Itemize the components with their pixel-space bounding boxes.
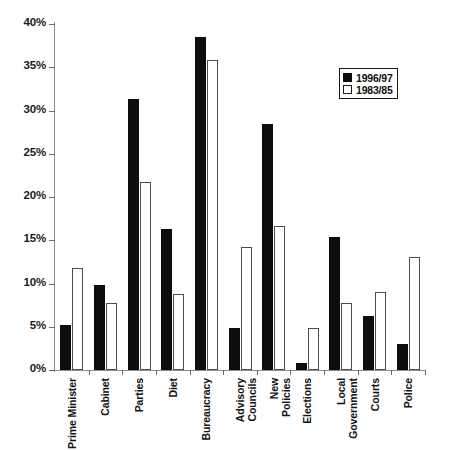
bar: [229, 328, 240, 370]
x-axis-tick: [89, 370, 90, 375]
bar: [397, 344, 408, 370]
bar: [308, 328, 319, 370]
bar-group: [262, 24, 285, 370]
x-axis-tick: [391, 370, 392, 375]
bar-group: [296, 24, 319, 370]
bar-group: [229, 24, 252, 370]
bar: [341, 303, 352, 370]
chart-legend: 1996/97 1983/85: [339, 68, 398, 99]
bar-group: [128, 24, 151, 370]
bar: [296, 363, 307, 370]
bar-group: [195, 24, 218, 370]
bar: [106, 303, 117, 370]
x-axis-tick: [324, 370, 325, 375]
bar: [173, 294, 184, 370]
bar: [72, 268, 83, 370]
bar: [409, 257, 420, 370]
x-axis-tick: [122, 370, 123, 375]
bar: [375, 292, 386, 370]
bar: [161, 229, 172, 370]
legend-label: 1996/97: [356, 72, 393, 84]
y-axis-tick-label: 5%: [6, 319, 46, 331]
bar: [60, 325, 71, 370]
bar: [262, 124, 273, 370]
x-axis-category-label: Elections: [302, 378, 314, 424]
x-axis-category-label: Police: [403, 378, 415, 408]
x-axis-line: [49, 370, 425, 371]
x-axis-tick: [190, 370, 191, 375]
bar-group: [397, 24, 420, 370]
y-axis-tick-label: 15%: [6, 232, 46, 244]
bar: [140, 182, 151, 370]
legend-swatch-filled-icon: [343, 73, 352, 82]
bar: [329, 237, 340, 370]
legend-item: 1983/85: [343, 84, 393, 95]
x-axis-category-label: NewPolicies: [269, 378, 292, 417]
y-axis-tick-label: 35%: [6, 59, 46, 71]
bar: [195, 37, 206, 370]
legend-item: 1996/97: [343, 72, 393, 83]
y-axis-tick-label: 30%: [6, 103, 46, 115]
scan-artifact: [0, 438, 450, 450]
bar-chart: 0%5%10%15%20%25%30%35%40% Prime Minister…: [0, 0, 450, 450]
x-axis-category-label: Cabinet: [100, 378, 112, 416]
x-axis-category-label: Diet: [168, 378, 180, 397]
x-axis-tick: [223, 370, 224, 375]
x-axis-tick: [156, 370, 157, 375]
bar: [94, 285, 105, 370]
bar: [274, 226, 285, 370]
x-axis-tick: [425, 370, 426, 375]
x-axis-category-label: Parties: [134, 378, 146, 412]
legend-swatch-outlined-icon: [343, 85, 352, 94]
bar-group: [161, 24, 184, 370]
x-axis-tick: [257, 370, 258, 375]
y-axis-tick-label: 40%: [6, 16, 46, 28]
bar: [363, 316, 374, 370]
x-axis-tick: [290, 370, 291, 375]
legend-label: 1983/85: [356, 84, 393, 96]
x-axis-category-label: AdvisoryCouncils: [235, 378, 258, 422]
x-axis-category-label: Bureaucracy: [201, 378, 213, 441]
y-axis-tick-label: 20%: [6, 189, 46, 201]
y-axis-tick-label: 0%: [6, 362, 46, 374]
bar: [128, 99, 139, 370]
x-axis-category-label: Courts: [370, 378, 382, 411]
bar-group: [60, 24, 83, 370]
y-axis-tick: [49, 370, 55, 371]
bar: [207, 60, 218, 370]
y-axis-tick-label: 25%: [6, 146, 46, 158]
bar: [241, 247, 252, 370]
bar-group: [94, 24, 117, 370]
x-axis-tick: [358, 370, 359, 375]
x-axis-category-label: LocalGovernment: [336, 378, 359, 439]
y-axis-tick-label: 10%: [6, 276, 46, 288]
